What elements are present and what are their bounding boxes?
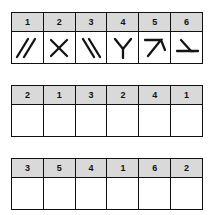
worksheet-sheet: 1 2 3 4 5 6 [0, 0, 211, 215]
answer-table-2-header-label-4: 1 [120, 164, 125, 173]
answer-table-2-blank-cell-4[interactable] [107, 178, 139, 209]
answer-table-1-blank-cell-2[interactable] [44, 105, 76, 136]
answer-table-1-header-label-4: 2 [120, 91, 125, 100]
answer-table-1-header-cell-3[interactable]: 3 [76, 86, 108, 104]
answer-table-1-blank-cell-1[interactable] [12, 105, 44, 136]
key-table-symbol-cell-1[interactable] [12, 32, 44, 63]
key-table-header-cell-6[interactable]: 6 [171, 13, 202, 31]
answer-table-2-header-cell-3[interactable]: 4 [76, 159, 108, 177]
answer-table-2-blank-cell-6[interactable] [171, 178, 202, 209]
answer-table-2-header-cell-2[interactable]: 5 [44, 159, 76, 177]
answer-table-2-blank-cell-1[interactable] [12, 178, 44, 209]
answer-table-2-blank-row [12, 178, 202, 209]
key-table-symbol-cell-4[interactable] [107, 32, 139, 63]
answer-table-1-header-cell-5[interactable]: 4 [139, 86, 171, 104]
key-table-header-cell-4[interactable]: 4 [107, 13, 139, 31]
answer-table-1-header-label-1: 2 [25, 91, 30, 100]
x-cross-icon [44, 34, 74, 62]
answer-table-1-header-label-3: 3 [89, 91, 94, 100]
answer-table-1-header-label-5: 4 [152, 91, 157, 100]
answer-table-2-header-row: 3 5 4 1 6 2 [12, 159, 202, 178]
answer-table-2-header-cell-1[interactable]: 3 [12, 159, 44, 177]
answer-table-1-blank-cell-6[interactable] [171, 105, 202, 136]
answer-table-1-blank-cell-4[interactable] [107, 105, 139, 136]
key-table-header-row: 1 2 3 4 5 6 [12, 13, 202, 32]
answer-table-2-header-cell-4[interactable]: 1 [107, 159, 139, 177]
answer-table-1-header-row: 2 1 3 2 4 1 [12, 86, 202, 105]
key-table-header-cell-1[interactable]: 1 [12, 13, 44, 31]
answer-table-1-header-label-2: 1 [57, 91, 62, 100]
key-table-header-cell-3[interactable]: 3 [76, 13, 108, 31]
answer-table-1-header-cell-6[interactable]: 1 [171, 86, 202, 104]
answer-table-1-header-label-6: 1 [184, 91, 189, 100]
key-table-symbol-cell-5[interactable] [139, 32, 171, 63]
key-table-header-label-6: 6 [184, 18, 189, 27]
answer-table-1-blank-cell-5[interactable] [139, 105, 171, 136]
answer-table-1-header-cell-4[interactable]: 2 [107, 86, 139, 104]
answer-table-2-header-label-2: 5 [57, 164, 62, 173]
answer-table-2-header-label-5: 6 [152, 164, 157, 173]
double-back-slash-icon [76, 34, 106, 62]
answer-table-2-header-cell-6[interactable]: 2 [171, 159, 202, 177]
answer-table-1: 2 1 3 2 4 1 [11, 85, 203, 137]
key-table-symbol-row [12, 32, 202, 63]
double-forward-slash-icon [12, 34, 42, 62]
answer-table-2: 3 5 4 1 6 2 [11, 158, 203, 210]
answer-table-2-header-label-1: 3 [25, 164, 30, 173]
answer-table-1-blank-row [12, 105, 202, 136]
answer-table-2-header-label-3: 4 [89, 164, 94, 173]
answer-table-2-blank-cell-3[interactable] [76, 178, 108, 209]
key-table-header-cell-5[interactable]: 5 [139, 13, 171, 31]
y-fork-rotated-90-icon [172, 34, 202, 62]
answer-table-2-header-cell-5[interactable]: 6 [139, 159, 171, 177]
y-fork-rotated-45-icon [140, 34, 170, 62]
key-table-symbol-cell-3[interactable] [76, 32, 108, 63]
key-table-symbol-cell-6[interactable] [171, 32, 202, 63]
key-table-header-label-5: 5 [152, 18, 157, 27]
key-table-symbol-cell-2[interactable] [44, 32, 76, 63]
key-table-header-label-4: 4 [120, 18, 125, 27]
y-fork-icon [108, 34, 138, 62]
answer-table-2-header-label-6: 2 [184, 164, 189, 173]
key-table: 1 2 3 4 5 6 [11, 12, 203, 64]
key-table-header-cell-2[interactable]: 2 [44, 13, 76, 31]
key-table-header-label-1: 1 [25, 18, 30, 27]
answer-table-1-header-cell-2[interactable]: 1 [44, 86, 76, 104]
answer-table-2-blank-cell-2[interactable] [44, 178, 76, 209]
answer-table-1-header-cell-1[interactable]: 2 [12, 86, 44, 104]
key-table-header-label-2: 2 [57, 18, 62, 27]
key-table-header-label-3: 3 [89, 18, 94, 27]
answer-table-2-blank-cell-5[interactable] [139, 178, 171, 209]
answer-table-1-blank-cell-3[interactable] [76, 105, 108, 136]
